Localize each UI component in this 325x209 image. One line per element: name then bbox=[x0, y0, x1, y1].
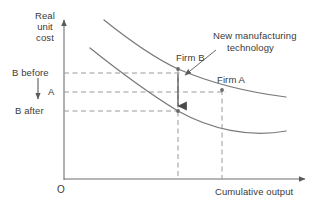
y-tick-label-b-after: B after bbox=[15, 105, 44, 116]
experience-curve-diagram: Realunitcost Cumulative output O B befor… bbox=[0, 0, 325, 209]
annotation-new-manufacturing-technology: New manufacturingtechnology bbox=[213, 30, 297, 54]
x-axis-label: Cumulative output bbox=[215, 186, 293, 197]
y-axis-label-line2: unit bbox=[37, 21, 53, 32]
y-axis-label: Realunitcost bbox=[28, 10, 62, 43]
output-lines bbox=[178, 69, 222, 179]
marker-firm-b-before bbox=[176, 67, 180, 71]
y-tick-label-a: A bbox=[48, 86, 54, 97]
point-label-firm-b: Firm B bbox=[176, 52, 205, 63]
marker-firm-b-after bbox=[176, 109, 180, 113]
annotation-line2: technology bbox=[213, 42, 274, 54]
annotation-line1: New manufacturing bbox=[213, 30, 297, 41]
origin-label: O bbox=[57, 184, 65, 195]
point-label-firm-a: Firm A bbox=[217, 74, 245, 85]
y-axis-label-line1: Real bbox=[35, 10, 55, 21]
y-tick-label-b-before: B before bbox=[12, 67, 49, 78]
y-axis-label-line3: cost bbox=[36, 32, 54, 43]
marker-firm-a bbox=[220, 88, 224, 92]
